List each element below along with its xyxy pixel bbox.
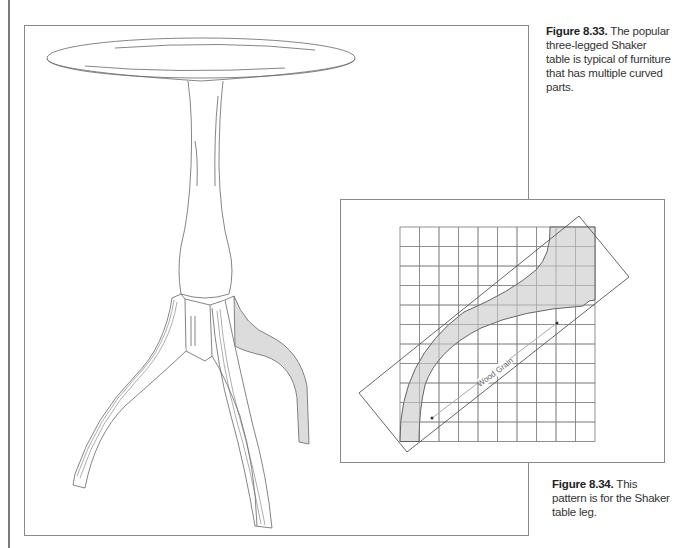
figure-caption-8-34: Figure 8.34. This pattern is for the Sha… <box>552 477 672 519</box>
wood-grain-label: Wood Grain <box>476 356 515 389</box>
figure-leg-pattern: Wood Grain <box>340 199 665 463</box>
leg-pattern-illustration: Wood Grain <box>341 200 664 462</box>
figure-number: Figure 8.33. <box>546 25 608 37</box>
page-margin-rule <box>8 0 10 548</box>
figure-number: Figure 8.34. <box>552 478 614 490</box>
figure-caption-8-33: Figure 8.33. The popular three-legged Sh… <box>546 24 672 94</box>
